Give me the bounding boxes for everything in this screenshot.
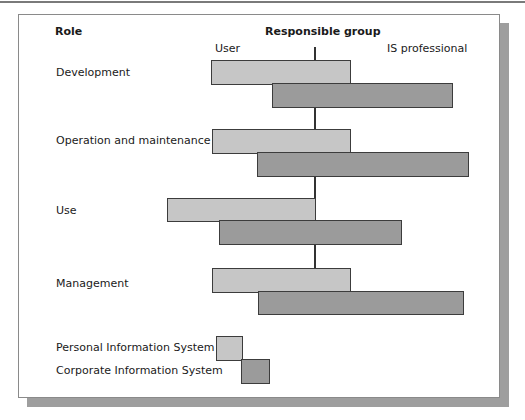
role-label: Development [56, 66, 130, 79]
user-axis-label: User [215, 42, 240, 55]
corporate-is-bar [272, 83, 453, 108]
axis-segment [314, 175, 316, 199]
personal-is-bar [211, 60, 351, 85]
role-label: Operation and maintenance [56, 134, 211, 147]
personal-is-bar [167, 198, 316, 222]
legend-label: Corporate Information System [56, 364, 223, 377]
personal-is-bar [212, 129, 351, 154]
corporate-is-bar [219, 220, 402, 245]
axis-segment [314, 47, 316, 61]
responsible-group-header: Responsible group [265, 25, 381, 38]
personal-is-bar [212, 268, 351, 293]
corporate-is-bar [257, 152, 469, 177]
legend-swatch-corporate [241, 359, 270, 384]
corporate-is-bar [258, 291, 464, 315]
role-label: Use [56, 204, 77, 217]
legend-swatch-personal [216, 336, 243, 361]
role-label: Management [56, 277, 128, 290]
axis-segment [314, 243, 316, 269]
diagram-canvas: Role Responsible group User IS professio… [0, 0, 525, 420]
is-professional-axis-label: IS professional [387, 42, 467, 55]
role-header: Role [55, 25, 82, 38]
axis-segment [314, 106, 316, 130]
legend-label: Personal Information System [56, 341, 214, 354]
